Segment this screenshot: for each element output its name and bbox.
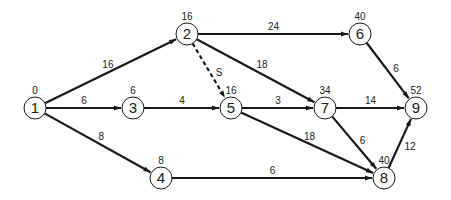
node-event-time: 40	[378, 155, 390, 166]
edge-2-7: 18	[197, 39, 315, 102]
node-label: 8	[380, 169, 388, 186]
node-5: 516	[220, 85, 242, 119]
node-7: 734	[314, 85, 336, 119]
edge-7-9: 14	[336, 95, 404, 108]
edge-7-8: 6	[332, 116, 376, 168]
edge-duration-label: 16	[102, 59, 114, 70]
node-label: 6	[356, 25, 364, 42]
node-event-time: 52	[410, 85, 422, 96]
edge-duration-label: 6	[360, 135, 366, 146]
edge-duration-label: 12	[404, 141, 416, 152]
arrow-line	[367, 43, 409, 99]
edge-6-9: 6	[367, 43, 409, 99]
edge-3-5: 4	[144, 95, 219, 108]
edge-1-4: 8	[45, 113, 151, 172]
edge-duration-label: 8	[99, 131, 105, 142]
edge-1-2: 16	[45, 39, 176, 103]
node-label: 3	[129, 99, 137, 116]
node-event-time: 8	[158, 155, 164, 166]
node-1: 10	[24, 85, 46, 119]
edge-duration-label: 6	[81, 95, 87, 106]
node-label: 9	[412, 99, 420, 116]
arrow-line	[45, 113, 151, 172]
edge-duration-label: 18	[304, 131, 316, 142]
edge-8-9: 12	[389, 119, 416, 168]
arrow-line	[332, 116, 376, 168]
node-3: 36	[122, 85, 144, 119]
edge-duration-label: 4	[179, 95, 185, 106]
node-event-time: 40	[354, 11, 366, 22]
arrow-line	[197, 39, 315, 102]
node-9: 952	[405, 85, 427, 119]
edge-duration-label: 18	[256, 59, 268, 70]
node-label: 1	[31, 99, 39, 116]
edge-4-8: 6	[172, 165, 372, 178]
edge-duration-label: 6	[393, 63, 399, 74]
edge-duration-label: S	[216, 67, 223, 78]
node-6: 640	[349, 11, 371, 45]
node-label: 5	[227, 99, 235, 116]
network-diagram: 166824S1843186614612 1021636485166407348…	[0, 0, 451, 200]
edge-duration-label: 14	[365, 95, 377, 106]
node-event-time: 6	[130, 85, 136, 96]
node-label: 4	[157, 169, 165, 186]
edge-duration-label: 3	[275, 95, 281, 106]
edge-duration-label: 24	[268, 21, 280, 32]
arrow-line	[45, 39, 176, 103]
edge-duration-label: 6	[270, 165, 276, 176]
node-label: 7	[321, 99, 329, 116]
node-event-time: 34	[319, 85, 331, 96]
node-4: 48	[150, 155, 172, 189]
node-event-time: 0	[32, 85, 38, 96]
edge-2-6: 24	[198, 21, 348, 34]
node-event-time: 16	[225, 85, 237, 96]
node-label: 2	[183, 25, 191, 42]
node-event-time: 16	[181, 11, 193, 22]
node-2: 216	[176, 11, 198, 45]
